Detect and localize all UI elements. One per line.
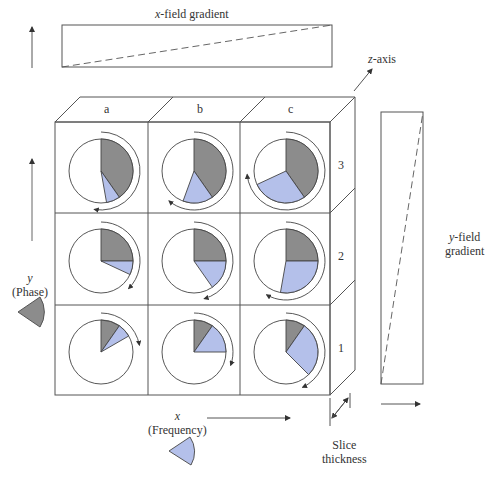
diagram-canvas	[0, 0, 494, 479]
frequency-axis-label: x(Frequency)	[148, 409, 207, 437]
cube-top-face	[55, 97, 355, 122]
voxel-c1	[254, 313, 325, 387]
column-label-a: a	[104, 102, 109, 116]
column-label-c: c	[288, 102, 293, 116]
slice-thickness-marker	[330, 393, 350, 426]
voxel-a2	[69, 222, 140, 293]
voxel-c3	[247, 132, 325, 210]
row-label-1: 1	[338, 341, 344, 355]
phase-axis-label: y(Phase)	[12, 271, 48, 299]
voxel-pies	[69, 132, 325, 387]
y-gradient-title: y-fieldgradient	[445, 230, 484, 258]
voxel-b2	[162, 222, 233, 299]
row-label-2: 2	[338, 249, 344, 263]
x-gradient-box	[62, 25, 332, 67]
column-label-b: b	[197, 102, 203, 116]
row-label-3: 3	[338, 158, 344, 172]
voxel-a1	[69, 313, 139, 384]
x-gradient-title: x-field gradient	[155, 7, 229, 21]
z-axis-label: z-axis	[368, 52, 396, 66]
y-gradient-box	[381, 112, 423, 384]
phase-wedge-icon	[18, 297, 44, 327]
voxel-c2	[254, 222, 325, 300]
slice-thickness-label: Slicethickness	[322, 438, 367, 466]
voxel-b1	[162, 313, 233, 384]
voxel-a3	[69, 132, 140, 210]
frequency-wedge-icon	[169, 437, 195, 465]
voxel-b3	[162, 132, 233, 210]
z-axis-arrow	[354, 69, 372, 91]
